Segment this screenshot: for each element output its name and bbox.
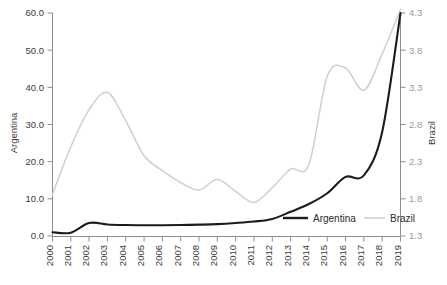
x-tick-label: 2019	[392, 245, 403, 266]
left-tick-label: 60.0	[26, 7, 45, 18]
x-tick-label: 2006	[153, 245, 164, 266]
right-tick-label: 1.3	[409, 230, 422, 241]
x-tick-label: 2010	[227, 245, 238, 266]
right-tick-label: 1.8	[409, 193, 422, 204]
figure-caption-partial	[8, 276, 338, 284]
x-axis-ticks: 2000200120022003200420052006200720082009…	[44, 237, 403, 267]
x-tick-label: 2018	[373, 245, 384, 266]
left-tick-label: 50.0	[26, 45, 45, 56]
legend-label-argentina: Argentina	[313, 213, 356, 224]
x-tick-label: 2008	[190, 245, 201, 266]
right-tick-label: 3.8	[409, 45, 422, 56]
right-tick-label: 4.3	[409, 7, 422, 18]
right-tick-label: 2.3	[409, 156, 422, 167]
x-tick-label: 2011	[245, 245, 256, 265]
left-tick-label: 20.0	[26, 156, 45, 167]
series-line-argentina	[53, 13, 401, 233]
x-tick-label: 2005	[135, 245, 146, 266]
left-tick-label: 10.0	[26, 193, 45, 204]
x-tick-label: 2009	[208, 245, 219, 266]
right-tick-label: 3.3	[409, 82, 422, 93]
x-tick-label: 2003	[98, 245, 109, 266]
x-tick-label: 2013	[282, 245, 293, 266]
dual-axis-line-chart: 0.010.020.030.040.050.060.0 1.31.82.32.8…	[0, 0, 447, 285]
left-tick-label: 40.0	[26, 82, 45, 93]
chart-legend: Argentina Brazil	[283, 213, 415, 224]
x-tick-label: 2007	[172, 245, 183, 266]
x-tick-label: 2015	[318, 245, 329, 266]
left-tick-label: 0.0	[31, 230, 44, 241]
chart-container: 0.010.020.030.040.050.060.0 1.31.82.32.8…	[0, 0, 447, 285]
left-axis-title: Argentina	[8, 112, 19, 153]
right-axis-ticks: 1.31.82.32.83.33.84.3	[401, 7, 423, 241]
x-tick-label: 2017	[355, 245, 366, 266]
x-tick-label: 2012	[263, 245, 274, 266]
series-line-brazil	[53, 9, 401, 202]
x-tick-label: 2001	[62, 245, 73, 266]
x-tick-label: 2014	[300, 245, 311, 266]
right-tick-label: 2.8	[409, 119, 422, 130]
x-tick-label: 2002	[80, 245, 91, 266]
right-axis-title: Brazil	[426, 121, 437, 145]
x-tick-label: 2004	[117, 245, 128, 266]
left-axis-ticks: 0.010.020.030.040.050.060.0	[26, 7, 53, 241]
x-tick-label: 2016	[337, 245, 348, 266]
x-tick-label: 2000	[44, 245, 55, 266]
legend-label-brazil: Brazil	[390, 213, 415, 224]
left-tick-label: 30.0	[26, 119, 45, 130]
